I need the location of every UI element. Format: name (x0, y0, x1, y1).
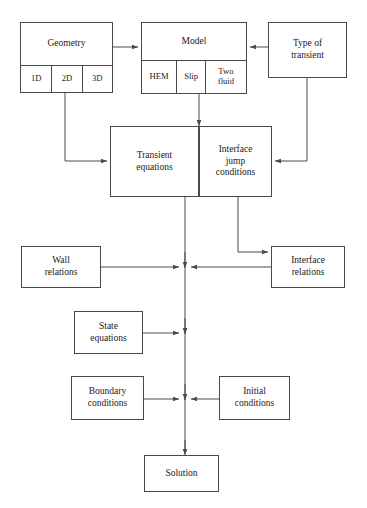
node-boundary-conditions-label: Boundary conditions (72, 377, 143, 419)
node-model[interactable]: Model HEM Slip Two fluid (141, 22, 247, 94)
geometry-cell-2d[interactable]: 2D (51, 66, 81, 92)
node-transient-equations-label: Transient equations (111, 127, 198, 196)
node-wall-relations-label: Wall relations (22, 247, 100, 287)
geometry-subcells: 1D 2D 3D (21, 65, 112, 92)
node-model-label: Model (142, 23, 246, 60)
edge-type-to-interface-jump (275, 78, 307, 161)
model-cell-hem[interactable]: HEM (142, 61, 176, 93)
node-initial-conditions[interactable]: Initial conditions (219, 376, 290, 420)
node-wall-relations[interactable]: Wall relations (21, 246, 101, 288)
model-subcells: HEM Slip Two fluid (142, 60, 246, 93)
edge-2d-to-transient (65, 93, 107, 161)
geometry-cell-1d[interactable]: 1D (21, 66, 51, 92)
model-cell-two-fluid[interactable]: Two fluid (205, 61, 246, 93)
node-solution-label: Solution (145, 456, 218, 491)
node-type-of-transient-label: Type of transient (269, 23, 346, 77)
flowchart-diagram: Geometry 1D 2D 3D Model HEM Slip Two flu… (0, 0, 367, 508)
node-state-equations[interactable]: State equations (74, 311, 143, 354)
node-initial-conditions-label: Initial conditions (220, 377, 289, 419)
node-geometry-label: Geometry (21, 23, 112, 65)
node-interface-relations[interactable]: Interface relations (271, 246, 345, 288)
node-boundary-conditions[interactable]: Boundary conditions (71, 376, 144, 420)
node-solution[interactable]: Solution (144, 455, 219, 492)
node-interface-jump-conditions[interactable]: Interface jump conditions (199, 126, 272, 197)
node-transient-equations[interactable]: Transient equations (110, 126, 199, 197)
node-geometry[interactable]: Geometry 1D 2D 3D (20, 22, 113, 93)
geometry-cell-3d[interactable]: 3D (82, 66, 112, 92)
node-interface-jump-conditions-label: Interface jump conditions (199, 127, 271, 196)
node-state-equations-label: State equations (75, 312, 142, 353)
node-type-of-transient[interactable]: Type of transient (268, 22, 347, 78)
model-cell-slip[interactable]: Slip (176, 61, 204, 93)
node-interface-relations-label: Interface relations (272, 247, 344, 287)
edge-jump-to-interface-relations (238, 197, 268, 252)
